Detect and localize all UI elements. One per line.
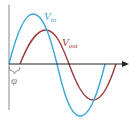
phase-brace [9,67,20,74]
phase-label: φ [11,74,17,86]
arrow-right-icon [122,61,129,67]
v-in-label: Vin [44,10,57,24]
v-in-wave [9,14,105,116]
v-out-label: Vout [62,36,79,50]
phase-diagram: Vin Vout φ [0,0,138,122]
